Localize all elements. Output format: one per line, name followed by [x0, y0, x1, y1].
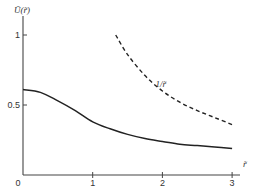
x-axis-label: r̃	[243, 159, 247, 169]
y-tick-label: 1	[15, 30, 20, 40]
x-tick-label: 3	[230, 178, 235, 188]
chart: 01230.51 Ũ(r̃) r̃ 1/r̃	[0, 0, 256, 188]
potential-curve	[23, 90, 232, 149]
axes	[23, 16, 240, 175]
ticks: 01230.51	[7, 30, 234, 188]
x-tick-label: 2	[160, 178, 165, 188]
curve-annotation: 1/r̃	[155, 79, 166, 89]
x-tick-label: 0	[15, 178, 20, 188]
x-tick-label: 1	[90, 178, 95, 188]
series	[23, 35, 232, 148]
inverse-r-curve	[116, 35, 232, 125]
y-axis-label: Ũ(r̃)	[14, 5, 30, 15]
y-tick-label: 0.5	[7, 100, 20, 110]
